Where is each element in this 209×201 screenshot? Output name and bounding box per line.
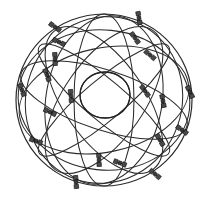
orbit-equator-tilt-3: [11, 21, 197, 178]
satellite-solar-panel-left: [73, 175, 78, 179]
orbit-group: [2, 0, 206, 201]
satellite-body: [57, 40, 61, 45]
satellite-solar-panel-right: [69, 98, 74, 102]
orbit-meridian-b: [32, 6, 176, 194]
satellite-icon: [73, 175, 79, 188]
satellite-body: [137, 16, 141, 20]
orbit-outer-sphere: [16, 14, 192, 186]
satellite-body: [97, 158, 101, 161]
satellite-solar-panel-right: [74, 184, 79, 188]
satellite-solar-panel-left: [97, 153, 102, 157]
satellite-solar-panel-right: [60, 41, 65, 47]
satellite-solar-panel-left: [53, 52, 58, 56]
satellite-icon: [185, 85, 194, 99]
satellite-body: [20, 88, 24, 92]
satellite-solar-panel-left: [185, 85, 191, 90]
satellite-icon: [68, 89, 74, 102]
satellite-solar-panel-left: [136, 11, 141, 16]
satellite-solar-panel-right: [97, 162, 102, 166]
satellite-body: [69, 94, 73, 98]
satellite-solar-panel-right: [161, 103, 166, 108]
satellite-solar-panel-right: [53, 61, 58, 65]
satellite-solar-panel-left: [160, 94, 165, 99]
satellite-icon: [29, 137, 43, 146]
satellite-solar-panel-left: [43, 107, 48, 113]
satellite-body: [161, 99, 165, 103]
satellite-solar-panel-right: [137, 20, 142, 25]
satellite-body: [74, 180, 78, 184]
satellite-solar-panel-right: [122, 162, 127, 168]
satellite-group: [18, 11, 195, 188]
satellite-icon: [113, 159, 127, 168]
central-circle: [80, 72, 130, 118]
satellite-solar-panel-left: [68, 89, 73, 93]
orbit-meridian-a: [74, 14, 134, 186]
orbit-inclined-3: [27, 31, 181, 170]
satellite-icon: [129, 31, 140, 44]
satellite-solar-panel-right: [46, 77, 52, 82]
satellite-body: [118, 161, 122, 165]
satellite-icon: [53, 52, 58, 65]
orbit-equator-tilt-1: [12, 45, 196, 156]
orbit-inclined-4: [27, 31, 181, 170]
satellite-solar-panel-left: [18, 83, 24, 88]
satellite-solar-panel-left: [113, 159, 118, 165]
satellite-icon: [97, 153, 102, 166]
satellite-body: [53, 57, 57, 60]
satellite-constellation-figure: [0, 0, 209, 201]
core-group: [80, 72, 130, 118]
constellation-diagram: [0, 0, 209, 201]
